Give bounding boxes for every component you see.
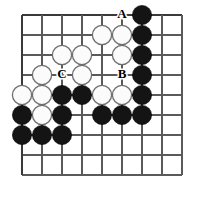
- stone-black[interactable]: [112, 105, 131, 124]
- stone-black[interactable]: [132, 85, 151, 104]
- stone-black[interactable]: [72, 85, 91, 104]
- stone-black[interactable]: [132, 65, 151, 84]
- stone-white[interactable]: [92, 25, 111, 44]
- stone-white[interactable]: [112, 45, 131, 64]
- point-label-b[interactable]: B: [118, 66, 127, 81]
- stone-black[interactable]: [12, 105, 31, 124]
- stone-white[interactable]: [72, 45, 91, 64]
- stone-white[interactable]: [72, 65, 91, 84]
- stone-black[interactable]: [52, 85, 71, 104]
- point-label-c[interactable]: C: [57, 66, 66, 81]
- stone-black[interactable]: [132, 25, 151, 44]
- stone-white[interactable]: [112, 85, 131, 104]
- stone-black[interactable]: [92, 105, 111, 124]
- stone-white[interactable]: [52, 45, 71, 64]
- stone-white[interactable]: [92, 85, 111, 104]
- stone-black[interactable]: [132, 45, 151, 64]
- stone-black[interactable]: [32, 125, 51, 144]
- stone-white[interactable]: [12, 85, 31, 104]
- stone-black[interactable]: [132, 105, 151, 124]
- point-label-a[interactable]: A: [117, 6, 127, 21]
- stone-black[interactable]: [132, 5, 151, 24]
- go-board-diagram: ABC: [0, 0, 205, 210]
- point-label-layer: ABC: [57, 6, 127, 81]
- stone-black[interactable]: [12, 125, 31, 144]
- stone-black[interactable]: [52, 125, 71, 144]
- stone-white[interactable]: [32, 85, 51, 104]
- goban-canvas: ABC: [0, 0, 205, 210]
- stone-white[interactable]: [112, 25, 131, 44]
- stone-white[interactable]: [32, 65, 51, 84]
- stone-black[interactable]: [52, 105, 71, 124]
- stone-white[interactable]: [32, 105, 51, 124]
